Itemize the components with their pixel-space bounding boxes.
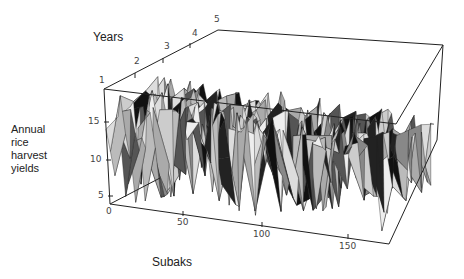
y-tick: 3 [164,41,170,51]
z-label-line: rice [11,136,47,149]
y-axis-label: Years [93,30,123,44]
surface-plot [0,0,464,279]
z-label-line: harvest [11,149,47,162]
y-tick: 1 [99,75,105,85]
x-axis-label: Subaks [152,255,192,269]
y-tick: 2 [134,56,140,66]
x-tick: 0 [106,206,112,216]
y-tick: 5 [214,14,220,24]
x-tick: 150 [339,241,356,251]
z-tick: 5 [98,190,104,200]
y-tick: 4 [192,28,198,38]
x-tick: 50 [177,217,188,227]
z-label-line: yields [11,162,47,175]
z-axis-label: Annual rice harvest yields [11,123,47,175]
z-tick: 15 [88,116,99,126]
z-tick: 10 [90,154,101,164]
z-label-line: Annual [11,123,47,136]
x-tick: 100 [253,229,270,239]
